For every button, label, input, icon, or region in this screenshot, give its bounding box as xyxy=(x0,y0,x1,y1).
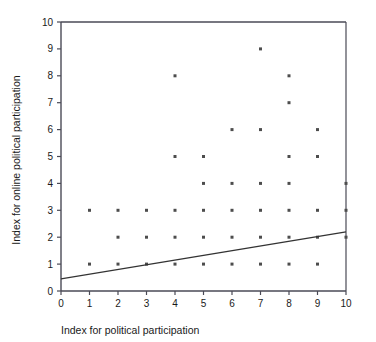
data-point xyxy=(345,182,348,185)
data-point xyxy=(288,263,291,266)
y-tick-label: 0 xyxy=(47,286,53,297)
x-tick-label: 5 xyxy=(201,298,207,309)
y-tick-label: 3 xyxy=(47,205,53,216)
y-tick-label: 9 xyxy=(47,43,53,54)
data-point xyxy=(316,209,319,212)
data-point xyxy=(288,155,291,158)
data-point xyxy=(288,236,291,239)
y-tick-label: 4 xyxy=(47,178,53,189)
data-point xyxy=(259,47,262,50)
x-tick-label: 3 xyxy=(144,298,150,309)
data-point xyxy=(174,74,177,77)
data-point xyxy=(174,236,177,239)
y-tick-label: 8 xyxy=(47,70,53,81)
data-point xyxy=(259,236,262,239)
data-point xyxy=(145,209,148,212)
data-point xyxy=(288,182,291,185)
data-point xyxy=(202,236,205,239)
y-tick-label: 7 xyxy=(47,97,53,108)
data-point xyxy=(231,182,234,185)
data-point xyxy=(202,263,205,266)
data-point xyxy=(259,128,262,131)
y-tick-label: 6 xyxy=(47,124,53,135)
data-point xyxy=(202,155,205,158)
data-point xyxy=(231,209,234,212)
data-point xyxy=(174,263,177,266)
x-tick-label: 7 xyxy=(258,298,264,309)
x-tick-label: 0 xyxy=(58,298,64,309)
data-point xyxy=(259,263,262,266)
data-point xyxy=(316,263,319,266)
x-tick-label: 4 xyxy=(172,298,178,309)
y-axis-title: Index for online political participation xyxy=(10,75,22,244)
x-tick-label: 6 xyxy=(229,298,235,309)
data-point xyxy=(88,209,91,212)
data-point xyxy=(117,236,120,239)
y-tick-label: 2 xyxy=(47,232,53,243)
x-tick-label: 9 xyxy=(315,298,321,309)
data-point xyxy=(202,182,205,185)
x-tick-label: 8 xyxy=(286,298,292,309)
scatter-chart: 012345678910 012345678910 Index for poli… xyxy=(0,0,376,342)
data-point xyxy=(88,263,91,266)
data-point xyxy=(117,263,120,266)
data-point xyxy=(174,155,177,158)
x-tick-label: 2 xyxy=(115,298,121,309)
data-point xyxy=(316,155,319,158)
data-point xyxy=(288,74,291,77)
data-point xyxy=(231,263,234,266)
data-point xyxy=(345,209,348,212)
y-tick-label: 10 xyxy=(42,17,54,28)
data-point xyxy=(174,209,177,212)
y-tick-label: 1 xyxy=(47,259,53,270)
y-tick-label: 5 xyxy=(47,151,53,162)
chart-canvas: 012345678910 012345678910 Index for poli… xyxy=(0,0,376,342)
data-point xyxy=(316,128,319,131)
data-point xyxy=(259,209,262,212)
x-tick-label: 10 xyxy=(340,298,352,309)
data-point xyxy=(288,101,291,104)
data-point xyxy=(202,209,205,212)
data-point xyxy=(145,236,148,239)
data-point xyxy=(231,128,234,131)
data-point xyxy=(345,236,348,239)
x-tick-label: 1 xyxy=(87,298,93,309)
data-point xyxy=(288,209,291,212)
data-point xyxy=(117,209,120,212)
data-point xyxy=(259,182,262,185)
data-point xyxy=(231,236,234,239)
x-axis-title: Index for political participation xyxy=(61,324,199,336)
